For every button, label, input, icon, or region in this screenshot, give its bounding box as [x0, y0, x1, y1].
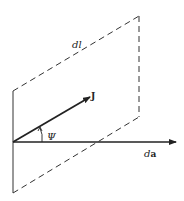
da-label-a: a: [150, 149, 156, 159]
dl-label: dl: [72, 39, 82, 50]
da-label: da: [144, 148, 156, 159]
surface-bottom-edge: [13, 117, 139, 193]
psi-label: Ψ: [47, 131, 57, 142]
j-label: J: [90, 91, 95, 101]
surface-top-edge: [13, 16, 139, 91]
current-density-diagram: dl J Ψ da: [0, 0, 184, 201]
